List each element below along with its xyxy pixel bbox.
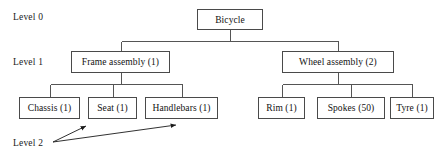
node-bicycle[interactable]: Bicycle [197, 9, 263, 30]
node-seat[interactable]: Seat (1) [88, 97, 137, 119]
node-frame-assembly[interactable]: Frame assembly (1) [71, 51, 170, 73]
node-wheel-assembly[interactable]: Wheel assembly (2) [282, 51, 394, 73]
node-rim[interactable]: Rim (1) [258, 97, 305, 119]
level-label-1: Level 1 [13, 57, 43, 67]
node-handlebars[interactable]: Handlebars (1) [145, 97, 218, 119]
node-tyre[interactable]: Tyre (1) [390, 97, 434, 119]
level-label-0: Level 0 [13, 12, 43, 22]
node-chassis[interactable]: Chassis (1) [19, 97, 80, 119]
node-spokes[interactable]: Spokes (50) [317, 97, 385, 119]
level-label-2: Level 2 [13, 138, 43, 148]
bom-diagram: Level 0 Level 1 Level 2 Bicycle Frame as… [0, 0, 445, 156]
